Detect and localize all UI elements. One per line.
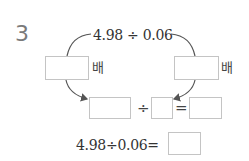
left-arrow	[66, 80, 87, 99]
quotient-box[interactable]	[189, 97, 222, 119]
right-top-curve	[171, 34, 195, 56]
left-multiplier-box[interactable]	[45, 56, 89, 80]
problem-number: 3	[15, 22, 29, 46]
final-expression: 4.98÷0.06=	[76, 137, 159, 153]
divisor-box[interactable]	[151, 97, 173, 119]
right-multiplier-box[interactable]	[174, 56, 219, 80]
dividend-box[interactable]	[89, 97, 131, 119]
left-multiplier-label: 배	[92, 60, 104, 76]
right-multiplier-label: 배	[221, 60, 233, 76]
left-top-curve	[67, 34, 91, 56]
divide-symbol: ÷	[137, 100, 150, 116]
final-answer-box[interactable]	[168, 132, 201, 155]
equals-symbol: =	[175, 100, 188, 116]
top-expression: 4.98 ÷ 0.06	[93, 27, 173, 43]
